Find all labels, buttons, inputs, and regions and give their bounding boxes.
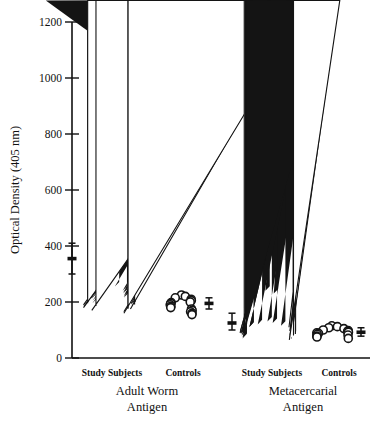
group-adult-worm-antigen-controls [166, 291, 196, 319]
x-label-study-subjects-adult: Study Subjects [82, 368, 143, 378]
y-axis-tick-labels: 1200 1000 800 600 400 200 0 [39, 16, 62, 364]
y-tick-label-0: 0 [56, 352, 62, 364]
panel-label-metacercarial-line2: Antigen [283, 400, 324, 414]
data-point-circle [188, 311, 196, 319]
data-point-circle [167, 304, 175, 312]
group-metacercarial-antigen-controls [313, 322, 353, 343]
data-point-circle [313, 333, 321, 341]
data-point-open-triangle [289, 0, 339, 340]
x-label-controls-meta: Controls [321, 368, 356, 378]
x-axis-panel-labels: Adult Worm Antigen Metacercarial Antigen [116, 384, 338, 414]
x-label-study-subjects-meta: Study Subjects [242, 368, 303, 378]
y-axis-title: Optical Density (405 nm) [8, 126, 22, 254]
data-points-layer [46, 0, 366, 342]
y-tick-label-1200: 1200 [39, 16, 62, 28]
y-tick-label-1000: 1000 [39, 72, 62, 84]
x-label-controls-adult: Controls [165, 368, 200, 378]
error-bar-metacercarial-antigen-study-subjects [228, 313, 237, 330]
panel-label-adult-worm-line2: Antigen [127, 400, 168, 414]
group-metacercarial-antigen-study-subjects [240, 0, 340, 340]
error-bar-metacercarial-antigen-controls [357, 328, 366, 336]
error-bar-adult-worm-antigen-study-subjects [68, 243, 77, 274]
x-axis-group-labels: Study Subjects Controls Study Subjects C… [82, 368, 357, 378]
data-point-circle [344, 334, 352, 342]
y-tick-label-800: 800 [45, 128, 63, 140]
y-tick-label-600: 600 [45, 184, 63, 196]
y-tick-label-400: 400 [45, 240, 63, 252]
scatter-plot-figure: Optical Density (405 nm) 1200 1000 800 6… [0, 0, 382, 426]
y-tick-label-200: 200 [45, 296, 63, 308]
chart-svg: Optical Density (405 nm) 1200 1000 800 6… [0, 0, 382, 426]
panel-label-adult-worm-line1: Adult Worm [116, 384, 179, 398]
panel-label-metacercarial-line1: Metacercarial [269, 384, 338, 398]
error-bar-adult-worm-antigen-controls [205, 298, 214, 309]
